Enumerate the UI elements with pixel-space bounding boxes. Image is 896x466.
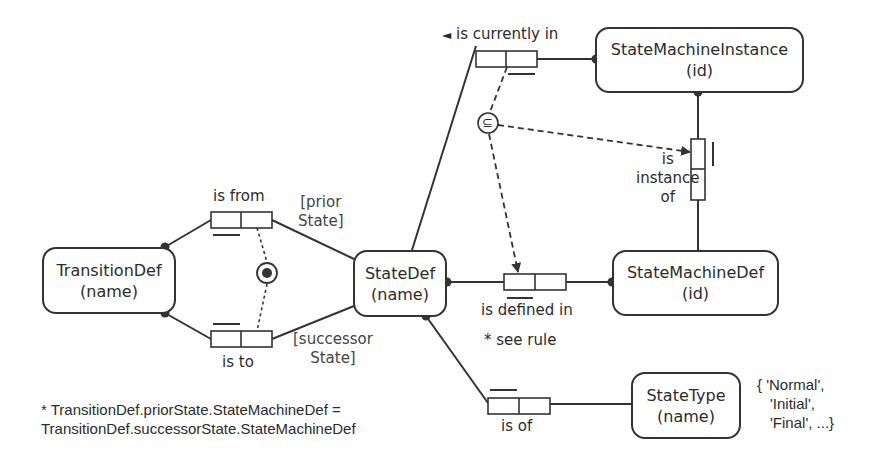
entity-state-machine-def[interactable]: StateMachineDef (id) bbox=[612, 250, 779, 316]
entity-state-type[interactable]: StateType (name) bbox=[631, 372, 741, 439]
connector-transition-isfrom bbox=[165, 220, 211, 247]
entity-name: StateMachineDef bbox=[627, 262, 764, 283]
note-see-rule: * see rule bbox=[484, 331, 556, 350]
derivation-rule: * TransitionDef.priorState.StateMachineD… bbox=[41, 400, 356, 438]
connector-statedef-currentlyin bbox=[412, 46, 476, 250]
entity-transition-def[interactable]: TransitionDef (name) bbox=[42, 247, 176, 314]
reading-is-currently-in: ◄ is currently in bbox=[442, 25, 558, 45]
connector-statedef-isof bbox=[426, 316, 488, 403]
entity-ref: (name) bbox=[80, 281, 138, 302]
entity-ref: (id) bbox=[682, 283, 709, 304]
reading-is-of: is of bbox=[501, 417, 532, 436]
reading-is-from: is from bbox=[213, 187, 265, 206]
entity-name: StateDef bbox=[365, 263, 435, 284]
role-name-successor-state: [successor State] bbox=[293, 330, 373, 368]
entity-state-machine-instance[interactable]: StateMachineInstance (id) bbox=[595, 27, 804, 93]
role-name-prior-state: [prior State] bbox=[298, 193, 344, 231]
entity-ref: (name) bbox=[657, 406, 715, 427]
connector-transition-isto bbox=[165, 313, 211, 339]
entity-ref: (name) bbox=[371, 284, 429, 305]
entity-name: StateType bbox=[646, 385, 725, 406]
subset-symbol-icon: ⊆ bbox=[482, 113, 493, 132]
entity-state-def[interactable]: StateDef (name) bbox=[353, 250, 447, 317]
entity-name: StateMachineInstance bbox=[611, 39, 788, 60]
reading-is-instance-of: is instance of bbox=[636, 150, 700, 207]
reading-is-to: is to bbox=[222, 353, 254, 372]
reading-is-defined-in: is defined in bbox=[481, 301, 573, 320]
entity-name: TransitionDef bbox=[56, 260, 161, 281]
direction-marker-icon: ◄ bbox=[442, 28, 451, 42]
value-constraint: { 'Normal', 'Initial', 'Final', ...} bbox=[757, 375, 834, 432]
entity-ref: (id) bbox=[686, 60, 713, 81]
